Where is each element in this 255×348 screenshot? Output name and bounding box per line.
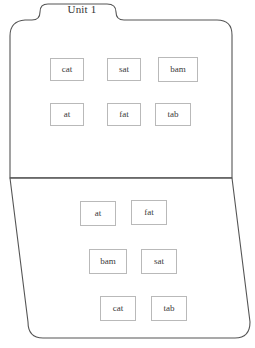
word-card[interactable]: bam (158, 57, 198, 82)
word-card[interactable]: fat (131, 200, 167, 225)
word-card[interactable]: tab (155, 103, 191, 126)
top-panel-shape (10, 4, 232, 178)
word-card[interactable]: sat (107, 58, 141, 81)
word-card[interactable]: cat (50, 58, 84, 81)
folder-tab-label: Unit 1 (38, 3, 126, 15)
word-card[interactable]: bam (89, 249, 127, 274)
word-card[interactable]: at (80, 201, 116, 226)
word-card[interactable]: fat (107, 103, 141, 126)
word-card[interactable]: sat (141, 249, 177, 274)
worksheet-canvas: Unit 1 catsatbamatfattab atfatbamsatcatt… (0, 0, 255, 348)
word-card[interactable]: at (50, 103, 84, 126)
word-card[interactable]: tab (151, 296, 187, 321)
word-card[interactable]: cat (100, 296, 136, 321)
